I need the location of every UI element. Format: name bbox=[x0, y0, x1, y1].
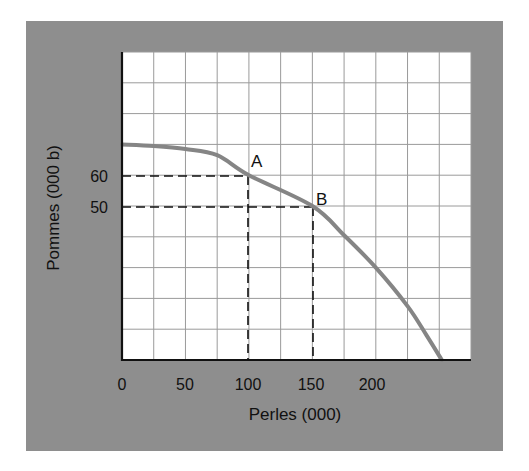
y-tick-label: 60 bbox=[90, 168, 108, 185]
x-tick-labels: 0 50 100 150 200 bbox=[118, 376, 386, 393]
x-tick-label: 200 bbox=[359, 376, 386, 393]
y-tick-label: 50 bbox=[90, 199, 108, 216]
x-tick-label: 100 bbox=[235, 376, 262, 393]
x-tick-label: 0 bbox=[118, 376, 127, 393]
point-a-label: A bbox=[251, 152, 263, 171]
x-tick-label: 150 bbox=[298, 376, 325, 393]
y-tick-labels: 60 50 bbox=[90, 168, 108, 216]
x-tick-label: 50 bbox=[176, 376, 194, 393]
y-axis-title: Pommes (000 b) bbox=[44, 145, 63, 271]
ppf-chart: 0 50 100 150 200 60 50 Perles (000) Pomm… bbox=[0, 0, 529, 471]
point-b-label: B bbox=[316, 190, 327, 209]
x-axis-title: Perles (000) bbox=[249, 405, 342, 424]
